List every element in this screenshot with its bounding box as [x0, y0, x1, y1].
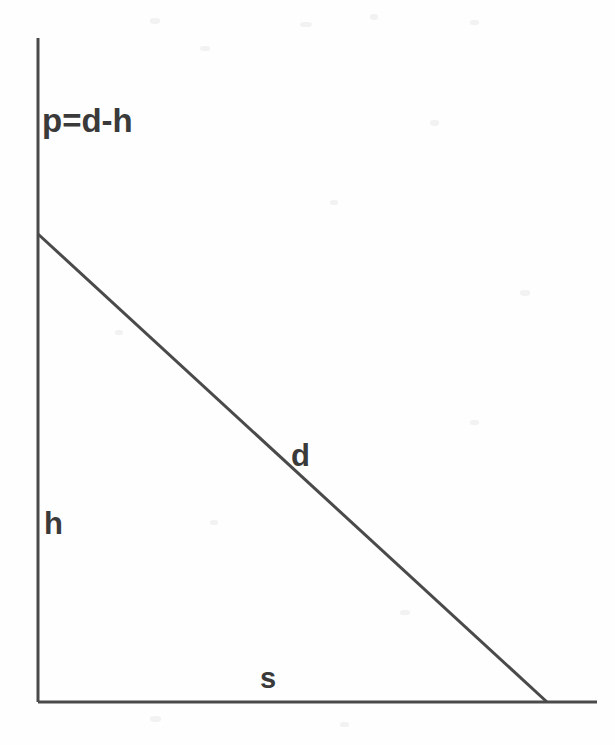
hypotenuse-label: d — [291, 440, 310, 471]
diagram-canvas: p=d-h d h s — [0, 0, 615, 745]
height-label: h — [44, 508, 63, 539]
relation-label: p=d-h — [42, 104, 133, 137]
base-label: s — [260, 664, 276, 693]
